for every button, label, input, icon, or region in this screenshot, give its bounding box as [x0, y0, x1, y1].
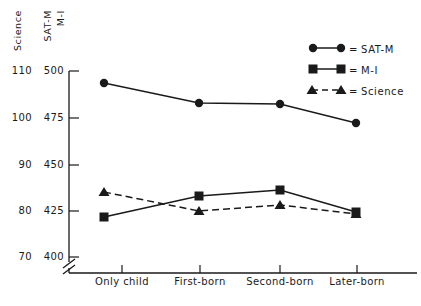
series-mi: [100, 186, 361, 222]
series-satm: [100, 79, 360, 127]
series-science-line: [104, 192, 356, 214]
series-satm-point: [276, 100, 284, 108]
series-satm-point: [352, 119, 360, 127]
series-mi-point: [276, 186, 285, 195]
plot-canvas: [0, 0, 421, 306]
legend-swatch-mi: [309, 65, 346, 74]
legend-swatch-science: [307, 85, 347, 94]
series-science-point: [99, 187, 110, 196]
series-mi-line: [104, 190, 356, 217]
legend-swatch-satm: [309, 44, 345, 52]
series-mi-point: [195, 192, 204, 201]
series-mi-point: [100, 213, 109, 222]
series-satm-point: [195, 99, 203, 107]
series-science-point: [275, 200, 286, 209]
series-satm-line: [104, 83, 356, 123]
series-satm-point: [100, 79, 108, 87]
chart-figure: Science SAT-M M-I 110 100 90 80 70 500 4…: [0, 0, 421, 306]
